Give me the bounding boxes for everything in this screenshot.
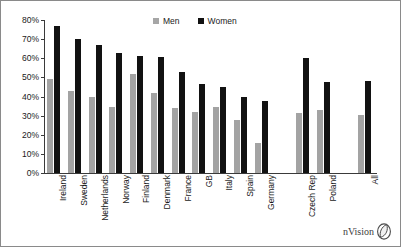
y-tick-mark	[41, 173, 45, 174]
bar-men	[68, 91, 74, 173]
x-tick-label: Ireland	[59, 175, 68, 201]
bar-women	[179, 72, 185, 173]
y-tick-label: 50%	[22, 73, 39, 82]
x-axis-line	[44, 173, 377, 174]
y-tick-label: 30%	[22, 111, 39, 120]
x-tick-label: Norway	[122, 175, 131, 204]
chart-figure: Men Women 0%10%20%30%40%50%60%70%80% Ire…	[0, 0, 401, 247]
bar-group	[87, 20, 108, 173]
bar-women	[220, 87, 226, 173]
bar-men	[317, 110, 323, 173]
bar-group	[253, 20, 274, 173]
x-tick-label: Netherlands	[101, 175, 110, 221]
bar-group	[107, 20, 128, 173]
y-tick-label: 60%	[22, 54, 39, 63]
bar-men	[255, 143, 261, 173]
x-tick-label: GB	[205, 175, 214, 187]
bar-group	[66, 20, 87, 173]
bar-group	[232, 20, 253, 173]
y-tick-label: 20%	[22, 131, 39, 140]
bar-group	[149, 20, 170, 173]
bar-women	[241, 97, 247, 174]
x-tick-label: All	[371, 175, 380, 184]
bar-men	[234, 120, 240, 173]
y-tick-label: 80%	[22, 16, 39, 25]
x-axis-category-labels: IrelandSwedenNetherlandsNorwayFinlandDen…	[45, 175, 377, 235]
plot-area: 0%10%20%30%40%50%60%70%80%	[45, 20, 377, 173]
bar-men	[172, 108, 178, 173]
x-tick-label: Spain	[246, 175, 255, 197]
bar-women	[96, 45, 102, 173]
bar-group	[128, 20, 149, 173]
y-tick-label: 0%	[27, 169, 39, 178]
x-tick-label: Czech Rep	[308, 175, 317, 217]
x-tick-label: Italy	[225, 175, 234, 191]
bar-men	[130, 74, 136, 173]
bar-women	[54, 26, 60, 173]
bar-group	[170, 20, 191, 173]
bar-group	[273, 20, 294, 173]
bar-men	[89, 97, 95, 174]
nvision-leaf-logo-icon	[376, 223, 392, 240]
bar-men	[358, 115, 364, 173]
x-tick-label: Denmark	[163, 175, 172, 209]
y-tick-label: 40%	[22, 92, 39, 101]
bar-men	[192, 112, 198, 173]
bar-series-container	[45, 20, 377, 173]
bar-women	[303, 58, 309, 173]
bar-men	[213, 107, 219, 173]
y-tick-label: 10%	[22, 150, 39, 159]
bar-group	[211, 20, 232, 173]
bar-women	[158, 57, 164, 173]
bar-women	[262, 101, 268, 173]
bar-women	[137, 56, 143, 173]
x-tick-label: France	[184, 175, 193, 201]
bar-group	[315, 20, 336, 173]
x-tick-label: Sweden	[80, 175, 89, 206]
x-tick-label: Poland	[329, 175, 338, 201]
nvision-watermark: nVision	[343, 223, 392, 240]
bar-group	[190, 20, 211, 173]
bar-group	[356, 20, 377, 173]
bar-women	[199, 84, 205, 173]
bar-men	[151, 93, 157, 173]
bar-women	[116, 53, 122, 173]
x-tick-label: Germany	[267, 175, 276, 210]
bar-group	[45, 20, 66, 173]
y-tick-label: 70%	[22, 35, 39, 44]
bar-men	[47, 79, 53, 173]
bar-men	[296, 113, 302, 173]
bar-group	[336, 20, 357, 173]
watermark-label: nVision	[343, 227, 374, 237]
bar-women	[365, 81, 371, 173]
bar-group	[294, 20, 315, 173]
bar-women	[324, 82, 330, 173]
bar-men	[109, 107, 115, 173]
bar-women	[75, 39, 81, 173]
x-tick-label: Finland	[142, 175, 151, 203]
